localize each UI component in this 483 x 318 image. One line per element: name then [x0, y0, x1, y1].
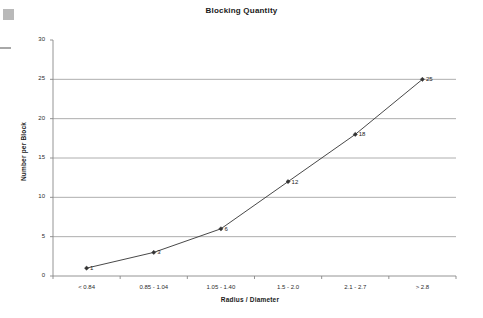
data-point-label: 6 [224, 226, 227, 232]
y-axis-tick-label: 5 [23, 233, 45, 239]
plot-svg [0, 0, 483, 318]
x-axis-tick-label: > 2.8 [389, 284, 456, 290]
x-axis-tick-label: 1.5 - 2.0 [255, 284, 322, 290]
data-point-label: 25 [426, 76, 433, 82]
x-axis-tick-label: 1.05 - 1.40 [187, 284, 254, 290]
chart-figure: Blocking Quantity 051015202530 < 0.840.8… [0, 0, 483, 318]
plot-area: 051015202530 < 0.840.85 - 1.041.05 - 1.4… [0, 0, 483, 318]
data-point-label: 12 [292, 179, 299, 185]
y-axis-tick-label: 30 [23, 36, 45, 42]
data-point-markers [84, 77, 424, 270]
x-axis-tick-label: 2.1 - 2.7 [322, 284, 389, 290]
y-axis-tick-label: 25 [23, 75, 45, 81]
x-axis-tick-label: 0.85 - 1.04 [120, 284, 187, 290]
y-axis-title: Number per Block [20, 107, 27, 197]
gridlines [53, 79, 456, 236]
x-axis-title: Radius / Diameter [44, 296, 456, 303]
y-axis-tick-label: 0 [23, 272, 45, 278]
data-point-label: 1 [90, 265, 93, 271]
data-point-label: 3 [157, 249, 160, 255]
x-axis-tick-label: < 0.84 [53, 284, 120, 290]
tick-marks [50, 40, 456, 279]
data-point-label: 18 [359, 131, 366, 137]
data-series-line [87, 79, 423, 268]
